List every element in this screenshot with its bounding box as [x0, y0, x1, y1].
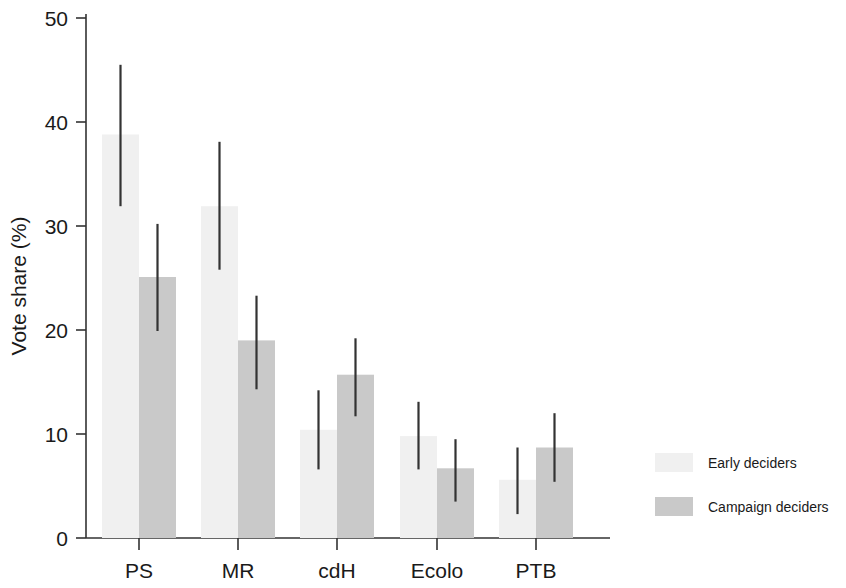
chart-figure: 50 40 30 20 10 0 Vote share (%) PS MR cd…: [0, 0, 846, 588]
x-tick-label-ps: PS: [125, 559, 153, 582]
y-axis-title: Vote share (%): [7, 217, 30, 356]
x-tick-label-ecolo: Ecolo: [411, 559, 464, 582]
legend-label-early: Early deciders: [708, 455, 797, 471]
y-tick-label-0: 0: [56, 527, 68, 550]
y-tick-label-50: 50: [45, 7, 68, 30]
legend-label-campaign: Campaign deciders: [708, 499, 829, 515]
legend-swatch-early: [655, 453, 693, 472]
y-tick-label-30: 30: [45, 215, 68, 238]
x-tick-label-ptb: PTB: [516, 559, 557, 582]
y-tick-label-20: 20: [45, 319, 68, 342]
y-tick-label-10: 10: [45, 423, 68, 446]
x-tick-label-cdh: cdH: [318, 559, 355, 582]
bar-chart-svg: 50 40 30 20 10 0 Vote share (%) PS MR cd…: [0, 0, 846, 588]
x-tick-label-mr: MR: [222, 559, 255, 582]
legend-swatch-campaign: [655, 497, 693, 516]
y-tick-label-40: 40: [45, 111, 68, 134]
